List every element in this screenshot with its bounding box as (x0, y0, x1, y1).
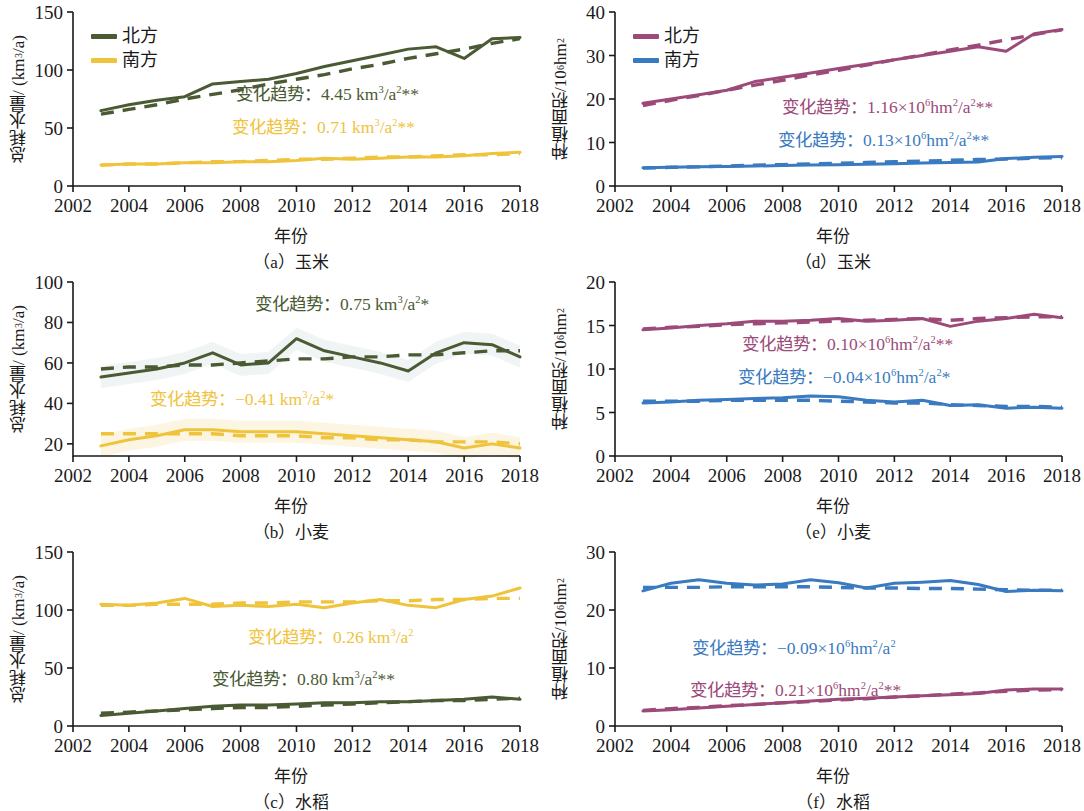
x-tick-label: 2008 (753, 736, 813, 755)
x-axis-label: 年份 (0, 492, 562, 517)
trend-annotation: 变化趋势：−0.09×106hm2/a2 (692, 639, 896, 657)
x-tick-label: 2004 (99, 196, 159, 215)
x-tick-label: 2008 (753, 196, 813, 215)
x-tick-label: 2016 (976, 196, 1036, 215)
y-axis-label: 总耗水量/ (km3/a) (6, 12, 31, 186)
x-axis-label: 年份 (542, 222, 1084, 247)
x-tick-label: 2010 (809, 196, 869, 215)
panel-f: 0102030200220042006200820102012201420162… (542, 540, 1084, 811)
plot-e: 0510152020022004200620082010201220142016… (542, 270, 1084, 540)
x-tick-label: 2014 (378, 736, 438, 755)
figure-grid: 0501001502002200420062008201020122014201… (0, 0, 1084, 811)
plot-d: 0102030402002200420062008201020122014201… (542, 0, 1084, 270)
x-tick-label: 2012 (864, 736, 924, 755)
data-line-南方 (643, 580, 1062, 592)
legend-swatch-icon (91, 34, 117, 39)
plot-c: 0501001502002200420062008201020122014201… (0, 540, 542, 811)
legend-item-north[interactable]: 北方 (91, 24, 158, 48)
trend-annotation: 变化趋势：0.13×106hm2/a2** (778, 131, 989, 149)
x-tick-label: 2014 (920, 196, 980, 215)
plot-b: 2040608010020022004200620082010201220142… (0, 270, 542, 540)
x-tick-label: 2014 (378, 196, 438, 215)
panel-d: 0102030402002200420062008201020122014201… (542, 0, 1084, 270)
x-tick-label: 2002 (585, 736, 645, 755)
x-tick-label: 2014 (378, 466, 438, 485)
panel-b: 2040608010020022004200620082010201220142… (0, 270, 542, 540)
legend-item-south[interactable]: 南方 (91, 48, 158, 72)
x-tick-label: 2018 (490, 736, 550, 755)
x-tick-label: 2010 (809, 466, 869, 485)
trend-annotation: 变化趋势：0.80 km3/a2** (212, 670, 395, 688)
panel-caption: （f）水稻 (542, 788, 1084, 811)
panel-caption: （c）水稻 (0, 788, 562, 811)
x-tick-label: 2018 (490, 196, 550, 215)
trend-annotation: 变化趋势：0.10×106hm2/a2** (742, 335, 953, 353)
trend-annotation: 变化趋势：0.71 km3/a2** (232, 118, 415, 136)
y-axis-label: 总耗水量/ (km3/a) (6, 552, 31, 726)
x-tick-label: 2012 (864, 466, 924, 485)
x-tick-label: 2014 (920, 736, 980, 755)
legend-label: 北方 (122, 27, 158, 45)
legend-item-south[interactable]: 南方 (633, 48, 700, 72)
x-tick-label: 2010 (267, 736, 327, 755)
x-axis-label: 年份 (0, 222, 562, 247)
confidence-band (101, 419, 520, 459)
x-tick-label: 2006 (697, 196, 757, 215)
x-tick-label: 2006 (697, 736, 757, 755)
legend-item-north[interactable]: 北方 (633, 24, 700, 48)
x-tick-label: 2012 (322, 736, 382, 755)
x-tick-label: 2008 (753, 466, 813, 485)
x-tick-label: 2016 (976, 466, 1036, 485)
x-tick-label: 2012 (864, 196, 924, 215)
legend-swatch-icon (633, 34, 659, 39)
x-tick-label: 2004 (99, 466, 159, 485)
legend-swatch-icon (633, 58, 659, 63)
y-axis-label: 种植面积/106hm2 (548, 282, 573, 456)
legend: 北方南方 (633, 24, 700, 72)
x-tick-label: 2010 (809, 736, 869, 755)
x-axis-label: 年份 (542, 762, 1084, 787)
plot-a: 0501001502002200420062008201020122014201… (0, 0, 542, 270)
x-tick-label: 2018 (1032, 466, 1084, 485)
x-tick-label: 2004 (641, 196, 701, 215)
y-axis-label: 总耗水量/ (km3/a) (6, 282, 31, 456)
x-tick-label: 2006 (155, 736, 215, 755)
plot-f: 0102030200220042006200820102012201420162… (542, 540, 1084, 811)
x-tick-label: 2008 (211, 196, 271, 215)
panel-e: 0510152020022004200620082010201220142016… (542, 270, 1084, 540)
x-tick-label: 2004 (99, 736, 159, 755)
x-tick-label: 2006 (155, 196, 215, 215)
y-axis-label: 种植面积/106hm2 (548, 12, 573, 186)
data-line-南方 (101, 588, 520, 608)
x-tick-label: 2002 (585, 196, 645, 215)
x-tick-label: 2018 (1032, 736, 1084, 755)
trend-annotation: 变化趋势：0.75 km3/a2* (255, 295, 429, 313)
x-tick-label: 2014 (920, 466, 980, 485)
x-tick-label: 2016 (434, 736, 494, 755)
panel-c: 0501001502002200420062008201020122014201… (0, 540, 542, 811)
trend-annotation: 变化趋势：−0.41 km3/a2* (150, 390, 334, 408)
x-tick-label: 2018 (1032, 196, 1084, 215)
x-tick-label: 2016 (434, 196, 494, 215)
legend-label: 北方 (664, 27, 700, 45)
trend-annotation: 变化趋势：0.21×106hm2/a2** (690, 681, 901, 699)
x-tick-label: 2002 (43, 466, 103, 485)
x-tick-label: 2004 (641, 466, 701, 485)
x-tick-label: 2002 (43, 736, 103, 755)
legend-label: 南方 (122, 51, 158, 69)
x-tick-label: 2008 (211, 466, 271, 485)
legend-swatch-icon (91, 58, 117, 63)
x-tick-label: 2006 (697, 466, 757, 485)
x-tick-label: 2006 (155, 466, 215, 485)
x-tick-label: 2010 (267, 466, 327, 485)
x-tick-label: 2012 (322, 466, 382, 485)
trend-annotation: 变化趋势：1.16×106hm2/a2** (782, 98, 993, 116)
x-tick-label: 2018 (490, 466, 550, 485)
y-axis-label: 种植面积/106hm2 (548, 552, 573, 726)
trend-annotation: 变化趋势：0.26 km3/a2 (248, 628, 414, 646)
trend-annotation: 变化趋势：−0.04×106hm2/a2* (738, 368, 950, 386)
x-tick-label: 2016 (434, 466, 494, 485)
x-tick-label: 2004 (641, 736, 701, 755)
x-tick-label: 2008 (211, 736, 271, 755)
x-axis-label: 年份 (542, 492, 1084, 517)
